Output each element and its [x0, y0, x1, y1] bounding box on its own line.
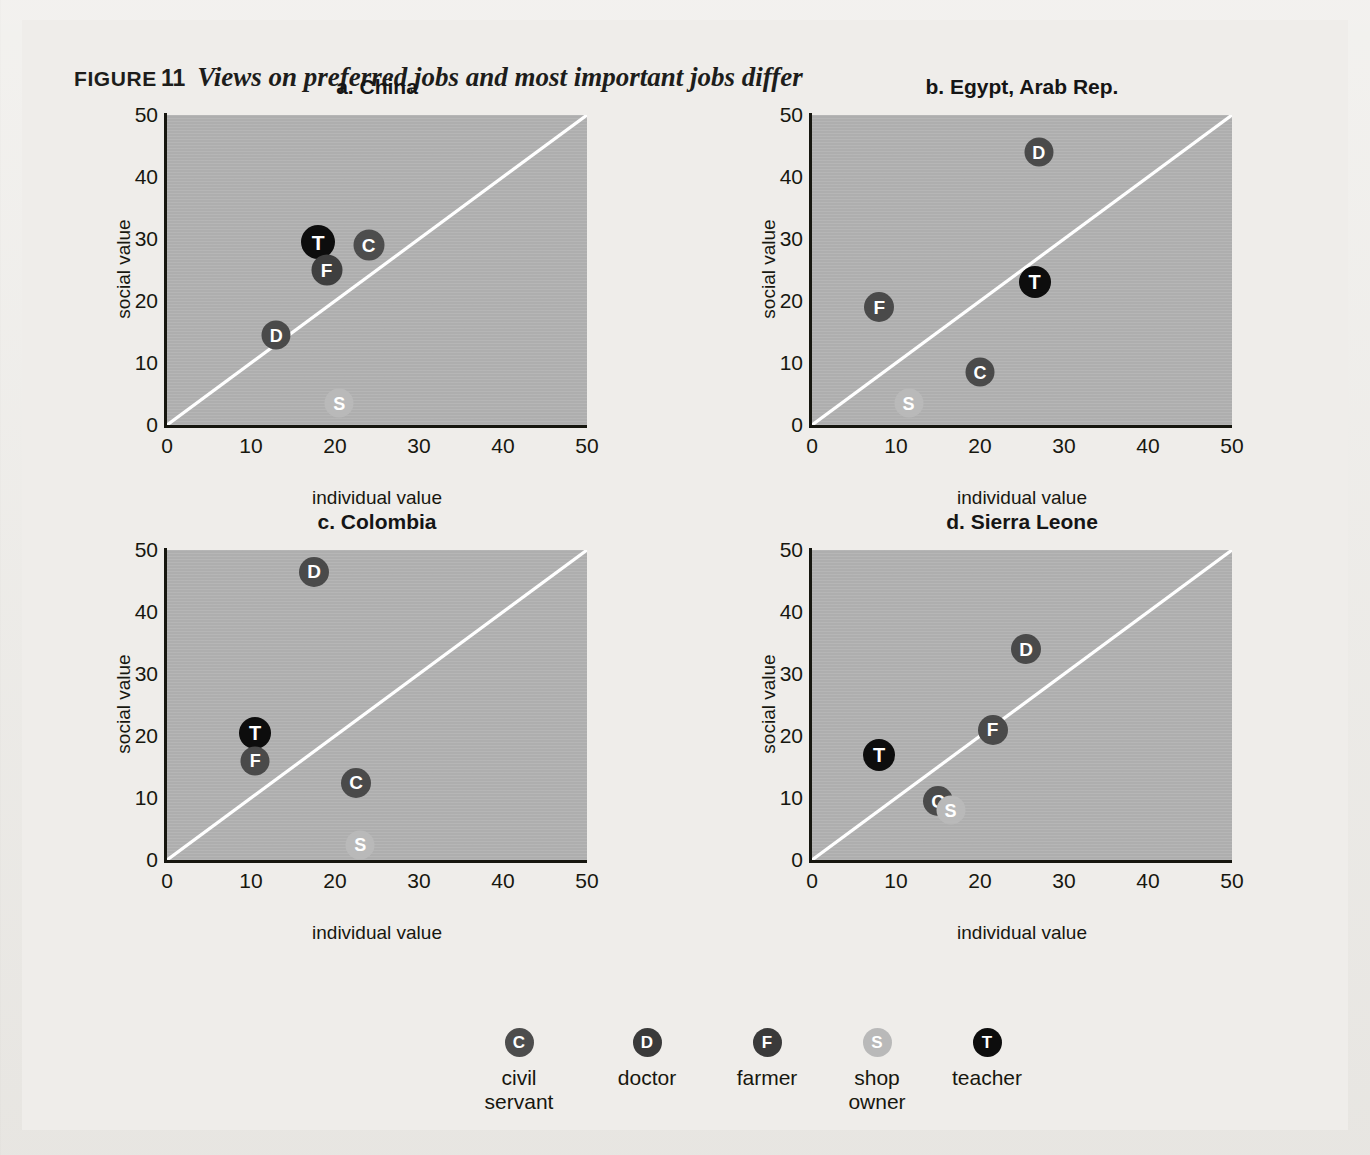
legend-marker-F: F — [753, 1028, 782, 1057]
x-tick-b-50: 50 — [1220, 434, 1243, 458]
x-axis-line-d — [809, 860, 1232, 863]
legend-marker-S: S — [863, 1028, 892, 1057]
data-point-a-doctor: D — [262, 321, 291, 350]
panel-c: c. ColombiaDTFCS0102030405001020304050so… — [67, 510, 627, 950]
x-axis-line-a — [164, 425, 587, 428]
x-tick-c-0: 0 — [161, 869, 173, 893]
y-tick-d-30: 30 — [780, 662, 803, 686]
x-tick-d-30: 30 — [1052, 869, 1075, 893]
data-point-c-shop-owner: S — [346, 830, 375, 859]
y-axis-line-b — [809, 113, 812, 427]
y-tick-c-30: 30 — [135, 662, 158, 686]
x-tick-b-10: 10 — [884, 434, 907, 458]
panel-title-b: b. Egypt, Arab Rep. — [812, 75, 1232, 99]
data-point-b-teacher: T — [1019, 266, 1051, 298]
panel-title-c: c. Colombia — [167, 510, 587, 534]
y-tick-d-40: 40 — [780, 600, 803, 624]
x-tick-a-30: 30 — [407, 434, 430, 458]
y-tick-b-0: 0 — [791, 413, 803, 437]
legend-label-D: doctor — [592, 1066, 702, 1090]
y-tick-c-40: 40 — [135, 600, 158, 624]
y-tick-d-10: 10 — [780, 786, 803, 810]
y-axis-label-a: social value — [113, 194, 135, 344]
panel-title-a: a. China — [167, 75, 587, 99]
x-tick-b-40: 40 — [1136, 434, 1159, 458]
x-tick-a-20: 20 — [323, 434, 346, 458]
data-point-d-teacher: T — [863, 739, 895, 771]
y-tick-a-40: 40 — [135, 165, 158, 189]
legend-label-T: teacher — [932, 1066, 1042, 1090]
legend-item-doctor: Ddoctor — [592, 1028, 702, 1090]
x-axis-line-b — [809, 425, 1232, 428]
panel-d: d. Sierra LeoneDFTCS01020304050010203040… — [712, 510, 1272, 950]
x-axis-label-d: individual value — [812, 922, 1232, 944]
y-tick-b-30: 30 — [780, 227, 803, 251]
y-tick-a-20: 20 — [135, 289, 158, 313]
legend: Ccivil servantDdoctorFfarmerSshop ownerT… — [22, 1020, 1348, 1130]
x-tick-b-0: 0 — [806, 434, 818, 458]
x-tick-c-50: 50 — [575, 869, 598, 893]
y-tick-c-20: 20 — [135, 724, 158, 748]
x-tick-c-30: 30 — [407, 869, 430, 893]
x-tick-d-40: 40 — [1136, 869, 1159, 893]
identity-reference-line-a — [167, 115, 587, 425]
data-point-d-farmer: F — [978, 715, 1008, 745]
identity-reference-line-d — [812, 550, 1232, 860]
x-axis-line-c — [164, 860, 587, 863]
x-tick-a-0: 0 — [161, 434, 173, 458]
plot-area-a: TCFDS0102030405001020304050 — [167, 115, 587, 425]
y-tick-c-50: 50 — [135, 538, 158, 562]
data-point-b-civil-servant: C — [966, 358, 995, 387]
legend-label-F: farmer — [712, 1066, 822, 1090]
x-tick-d-50: 50 — [1220, 869, 1243, 893]
plot-area-c: DTFCS0102030405001020304050 — [167, 550, 587, 860]
x-axis-label-c: individual value — [167, 922, 587, 944]
y-tick-d-20: 20 — [780, 724, 803, 748]
y-tick-a-50: 50 — [135, 103, 158, 127]
y-axis-line-a — [164, 113, 167, 427]
figure-canvas: FIGURE11Views on preferred jobs and most… — [22, 20, 1348, 1130]
y-axis-label-b: social value — [758, 194, 780, 344]
y-tick-b-10: 10 — [780, 351, 803, 375]
y-tick-b-40: 40 — [780, 165, 803, 189]
data-point-c-civil-servant: C — [341, 768, 371, 798]
x-tick-c-20: 20 — [323, 869, 346, 893]
x-tick-d-10: 10 — [884, 869, 907, 893]
data-point-a-shop-owner: S — [325, 389, 354, 418]
data-point-c-farmer: F — [241, 746, 270, 775]
figure-page: FIGURE11Views on preferred jobs and most… — [0, 0, 1370, 1155]
y-tick-d-0: 0 — [791, 848, 803, 872]
panel-b: b. Egypt, Arab Rep.DTFCS0102030405001020… — [712, 75, 1272, 515]
x-tick-b-20: 20 — [968, 434, 991, 458]
y-tick-a-10: 10 — [135, 351, 158, 375]
legend-item-shop-owner: Sshop owner — [822, 1028, 932, 1113]
data-point-a-farmer: F — [311, 255, 342, 286]
legend-item-civil-servant: Ccivil servant — [464, 1028, 574, 1113]
y-tick-c-0: 0 — [146, 848, 158, 872]
y-axis-label-c: social value — [113, 629, 135, 779]
panel-title-d: d. Sierra Leone — [812, 510, 1232, 534]
data-point-b-doctor: D — [1024, 138, 1053, 167]
data-point-b-shop-owner: S — [894, 389, 923, 418]
y-tick-d-50: 50 — [780, 538, 803, 562]
y-tick-a-0: 0 — [146, 413, 158, 437]
y-axis-line-c — [164, 548, 167, 862]
legend-marker-D: D — [633, 1028, 662, 1057]
data-point-d-shop-owner: S — [936, 796, 965, 825]
x-tick-d-20: 20 — [968, 869, 991, 893]
y-tick-c-10: 10 — [135, 786, 158, 810]
data-point-d-doctor: D — [1011, 634, 1041, 664]
legend-item-teacher: Tteacher — [932, 1028, 1042, 1090]
x-tick-a-10: 10 — [239, 434, 262, 458]
y-axis-line-d — [809, 548, 812, 862]
identity-reference-line-c — [167, 550, 587, 860]
data-point-c-teacher: T — [239, 717, 271, 749]
x-tick-c-10: 10 — [239, 869, 262, 893]
legend-item-farmer: Ffarmer — [712, 1028, 822, 1090]
legend-label-S: shop owner — [822, 1066, 932, 1113]
plot-area-d: DFTCS0102030405001020304050 — [812, 550, 1232, 860]
x-tick-d-0: 0 — [806, 869, 818, 893]
y-tick-b-20: 20 — [780, 289, 803, 313]
y-tick-b-50: 50 — [780, 103, 803, 127]
plot-area-b: DTFCS0102030405001020304050 — [812, 115, 1232, 425]
